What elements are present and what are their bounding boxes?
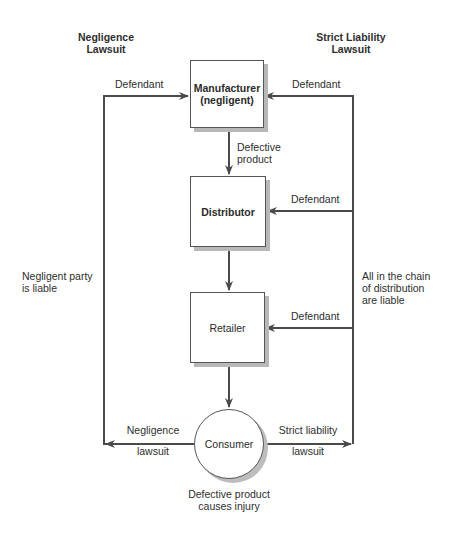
negligence-lawsuit-label: Negligence lawsuit xyxy=(118,424,188,457)
header-line: Lawsuit xyxy=(306,43,396,55)
header-line: Negligence xyxy=(68,31,144,43)
chain-liability-note: All in the chain of distribution are lia… xyxy=(362,270,430,306)
right-defendant-distributor-label: Defendant xyxy=(291,193,339,205)
header-line: Strict Liability xyxy=(306,31,396,43)
manufacturer-label: Manufacturer xyxy=(194,82,261,94)
label-line: Strict liability xyxy=(268,424,348,436)
consumer-node: Consumer xyxy=(194,409,264,479)
manufacturer-node: Manufacturer (negligent) xyxy=(190,60,264,128)
distributor-label: Distributor xyxy=(201,206,255,218)
label-line: Defective xyxy=(237,141,281,153)
note-line: All in the chain xyxy=(362,270,430,282)
label-line: Negligence xyxy=(118,424,188,436)
label-line: product xyxy=(237,153,281,165)
negligent-party-note: Negligent party is liable xyxy=(22,270,93,294)
defective-product-label: Defective product xyxy=(237,141,281,165)
retailer-node: Retailer xyxy=(190,292,265,363)
label-line: lawsuit xyxy=(118,445,188,457)
right-defendant-retailer-label: Defendant xyxy=(291,310,339,322)
strict-liability-lawsuit-header: Strict Liability Lawsuit xyxy=(306,31,396,55)
note-line: of distribution xyxy=(362,282,430,294)
header-line: Lawsuit xyxy=(68,43,144,55)
right-defendant-manufacturer-label: Defendant xyxy=(292,78,340,90)
distributor-node: Distributor xyxy=(190,176,266,247)
injury-caption: Defective product causes injury xyxy=(174,488,284,512)
note-line: is liable xyxy=(22,282,93,294)
caption-line: causes injury xyxy=(174,500,284,512)
strict-liability-lawsuit-label: Strict liability lawsuit xyxy=(268,424,348,457)
caption-line: Defective product xyxy=(174,488,284,500)
retailer-label: Retailer xyxy=(209,322,245,334)
note-line: Negligent party xyxy=(22,270,93,282)
negligence-path xyxy=(104,96,194,444)
left-defendant-label: Defendant xyxy=(115,78,163,90)
negligence-lawsuit-header: Negligence Lawsuit xyxy=(68,31,144,55)
manufacturer-sublabel: (negligent) xyxy=(194,94,261,106)
note-line: are liable xyxy=(362,294,430,306)
label-line: lawsuit xyxy=(268,445,348,457)
consumer-label: Consumer xyxy=(205,438,253,450)
